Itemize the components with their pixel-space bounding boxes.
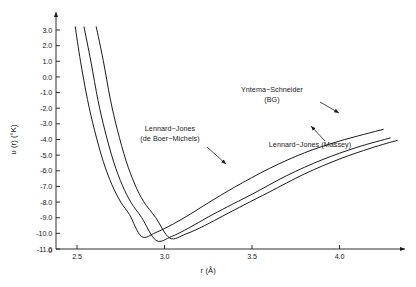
y-tick-label: -1.0 xyxy=(40,88,52,97)
potential-curve-1 xyxy=(84,27,390,242)
y-tick-label: -2.0 xyxy=(40,104,52,113)
lennard-jones-massey-annotation: Lennard−Jones (Massey) xyxy=(269,126,351,149)
y-tick-label: -5.0 xyxy=(40,151,52,160)
y-tick-label: -10.0 xyxy=(36,229,52,238)
annotation-line2: (BG) xyxy=(264,95,279,104)
y-tick-label: -8.0 xyxy=(40,198,52,207)
annotation-leader-arrow xyxy=(207,147,226,164)
x-tick-label: 3.0 xyxy=(160,252,170,261)
annotation-line1: Lennard−Jones xyxy=(145,124,196,133)
x-tick-label: 4.0 xyxy=(335,252,345,261)
y-tick-label: 1.0 xyxy=(42,57,52,66)
annotations-group: Yntema−Schneider(BG)Lennard−Jones(de Boe… xyxy=(140,85,351,164)
y-tick-label: -3.0 xyxy=(40,119,52,128)
annotation-line1: Lennard−Jones (Massey) xyxy=(269,140,351,149)
figure-container: 3.02.01.00.0-1.0-2.0-3.0-4.0-5.0-6.0-7.0… xyxy=(0,0,416,287)
y-tick-label: -4.0 xyxy=(40,135,52,144)
y-tick-label: 0.0 xyxy=(42,73,52,82)
curves-group xyxy=(75,27,397,242)
x-tick-label: 2.5 xyxy=(72,252,82,261)
lennard-jones-de-boer-michels-annotation: Lennard−Jones(de Boer−Michels) xyxy=(140,124,226,164)
y-axis-title: υ (r) (°K) xyxy=(9,124,18,154)
annotation-leader-arrow xyxy=(320,102,339,113)
y-tick-label: -6.0 xyxy=(40,166,52,175)
origin-label: 0 xyxy=(48,246,52,255)
x-tick-label: 3.5 xyxy=(247,252,257,261)
potential-energy-chart: 3.02.01.00.0-1.0-2.0-3.0-4.0-5.0-6.0-7.0… xyxy=(0,0,416,287)
yntema-schneider-annotation: Yntema−Schneider(BG) xyxy=(241,85,339,113)
y-tick-label: -7.0 xyxy=(40,182,52,191)
annotation-leader-arrow xyxy=(311,126,325,141)
annotation-line2: (de Boer−Michels) xyxy=(140,134,199,143)
annotation-line1: Yntema−Schneider xyxy=(241,85,304,94)
y-tick-label: 2.0 xyxy=(42,41,52,50)
y-tick-label: -9.0 xyxy=(40,213,52,222)
y-tick-label: 3.0 xyxy=(42,26,52,35)
x-axis-title: r (Å) xyxy=(201,266,217,275)
